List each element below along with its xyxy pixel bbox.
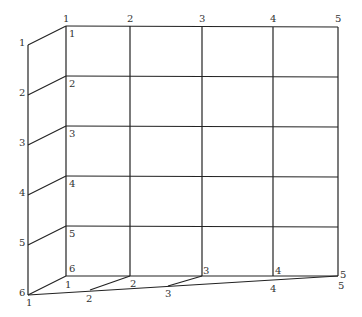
back-left-labels: 1 2 3 4 5 6	[69, 28, 75, 274]
label-back-row-4: 4	[69, 178, 75, 189]
label-side-4: 4	[19, 187, 25, 198]
label-top-4: 4	[270, 13, 276, 24]
side-left-labels: 1 2 3 4 5 6	[19, 37, 25, 298]
label-front-4: 4	[270, 283, 276, 294]
back-top-labels: 1 2 3 4 5	[63, 13, 341, 24]
label-back-row-6: 6	[69, 263, 75, 274]
label-back-row-5: 5	[69, 228, 75, 239]
label-side-3: 3	[19, 137, 25, 148]
label-top-2: 2	[127, 13, 133, 24]
label-side-5: 5	[19, 237, 25, 248]
label-back-row-3: 3	[69, 128, 75, 139]
label-top-3: 3	[199, 13, 205, 24]
label-back-bottom-4: 4	[275, 265, 281, 276]
label-side-1: 1	[19, 37, 25, 48]
label-front-5: 5	[338, 280, 344, 291]
left-side-plane	[28, 26, 66, 295]
front-bottom-labels: 1 2 3 4 5	[26, 280, 344, 308]
floor-plane	[28, 276, 338, 295]
label-back-bottom-3: 3	[203, 265, 209, 276]
back-plane-grid	[66, 26, 338, 276]
label-back-bottom-2: 2	[130, 278, 136, 289]
label-side-2: 2	[19, 87, 25, 98]
label-top-5: 5	[335, 13, 341, 24]
label-front-2: 2	[86, 293, 92, 304]
label-back-bottom-1: 1	[65, 279, 71, 290]
label-side-6: 6	[19, 287, 25, 298]
label-top-1: 1	[63, 13, 69, 24]
label-back-row-1: 1	[69, 28, 75, 39]
grid-diagram: 1 2 3 4 5 1 2 3 4 5 6 1 2 3 4 5 6 1 2 3 …	[0, 0, 362, 317]
label-front-1: 1	[26, 297, 32, 308]
label-front-3: 3	[165, 288, 171, 299]
label-back-row-2: 2	[69, 78, 75, 89]
label-back-bottom-5: 5	[340, 269, 346, 280]
